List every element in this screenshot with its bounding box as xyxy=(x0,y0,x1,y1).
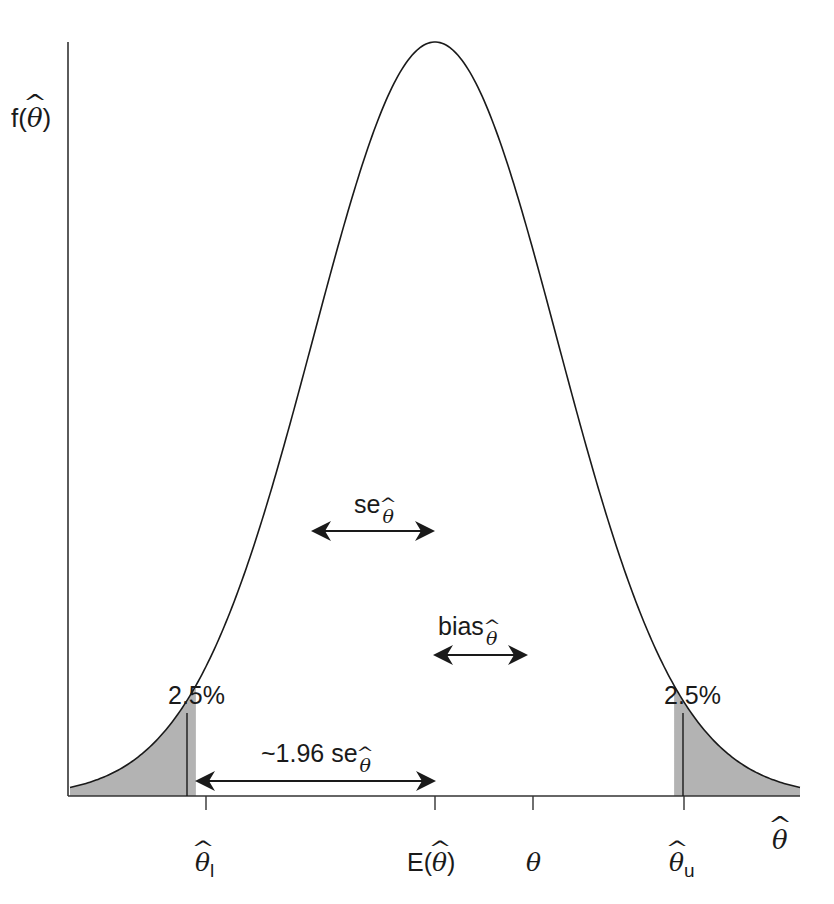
bias-annotation: biasθ xyxy=(438,614,497,639)
theta-hat-symbol: θ xyxy=(432,850,447,875)
upper-subscript: u xyxy=(684,860,695,881)
lower-tail-label: 2.5% xyxy=(168,683,225,708)
upper-tail-label: 2.5% xyxy=(664,683,721,708)
y-axis-label: f(θ) xyxy=(11,105,51,131)
lower-subscript: l xyxy=(210,860,214,881)
x-axis-label: θ xyxy=(772,827,788,853)
bias-text: bias xyxy=(438,612,484,640)
density-curve xyxy=(70,42,800,787)
ci-half-text: ~1.96 se xyxy=(261,739,358,767)
tick-label-true-theta: θ xyxy=(526,850,541,875)
theta-symbol: θ xyxy=(526,848,541,877)
theta-hat-symbol: θ xyxy=(669,850,684,875)
theta-hat-subscript: θ xyxy=(382,507,393,526)
density-plot xyxy=(0,0,834,904)
theta-hat-symbol: θ xyxy=(772,827,788,853)
tick-label-lower-limit: θl xyxy=(195,850,214,875)
theta-hat-subscript: θ xyxy=(360,756,371,775)
theta-hat-subscript: θ xyxy=(486,629,497,648)
ci-half-annotation: ~1.96 seθ xyxy=(261,741,371,766)
se-annotation: seθ xyxy=(354,492,394,517)
tick-label-upper-limit: θu xyxy=(669,850,695,875)
theta-hat-symbol: θ xyxy=(27,105,43,131)
x-ticks xyxy=(206,796,684,810)
se-text: se xyxy=(354,490,380,518)
theta-hat-symbol: θ xyxy=(195,850,210,875)
tick-label-expectation: E(θ) xyxy=(407,850,455,875)
